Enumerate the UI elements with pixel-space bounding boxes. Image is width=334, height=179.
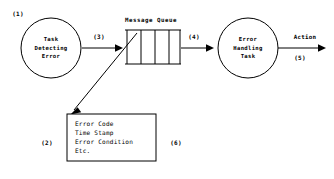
- error-handling-task-line-2: Handling: [233, 45, 262, 52]
- arrow-5-head: [318, 44, 326, 52]
- node-error-handling-task[interactable]: Error Handling Task: [218, 18, 278, 78]
- message-content-line-3: Error Condition: [75, 138, 133, 145]
- task-detecting-error-line-2: Detecting: [34, 45, 67, 52]
- action-label: Action: [294, 34, 317, 40]
- diagram-canvas: (1) Task Detecting Error (3) Message Que…: [0, 0, 334, 179]
- arrow-detecting-task-to-queue: [82, 44, 123, 52]
- message-content-line-4: Etc.: [75, 147, 90, 154]
- error-handling-task-line-3: Task: [241, 53, 256, 59]
- arrow-3-head: [115, 44, 123, 52]
- message-content-line-2: Time Stamp: [75, 129, 114, 137]
- reference-label-2: (2): [41, 139, 52, 146]
- message-queue-title: Message Queue: [125, 17, 177, 24]
- task-detecting-error-line-1: Task: [44, 36, 59, 42]
- message-content-line-1: Error Code: [75, 120, 114, 127]
- error-handling-task-line-1: Error: [239, 36, 258, 42]
- node-message-content-box[interactable]: Error Code Time Stamp Error Condition Et…: [67, 114, 156, 161]
- arrow-handling-task-to-action: [278, 44, 326, 52]
- node-task-detecting-error[interactable]: Task Detecting Error: [21, 18, 81, 78]
- diagram-svg: (1) Task Detecting Error (3) Message Que…: [0, 0, 334, 179]
- task-detecting-error-line-3: Error: [42, 53, 61, 59]
- reference-label-3: (3): [93, 33, 104, 40]
- reference-label-5: (5): [294, 54, 305, 61]
- reference-label-6: (6): [170, 139, 181, 146]
- reference-label-1: (1): [12, 10, 23, 17]
- arrow-4-head: [206, 44, 214, 52]
- arrow-queue-to-handling-task: [181, 44, 214, 52]
- reference-label-4: (4): [188, 33, 199, 40]
- node-message-queue[interactable]: [125, 30, 181, 64]
- callout-arrow-shaft: [74, 33, 137, 110]
